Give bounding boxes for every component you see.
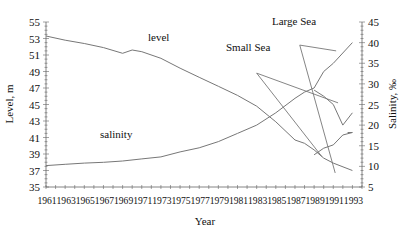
- axes: 1961196319651967196919711973197519771979…: [29, 16, 380, 206]
- series-salinity-small-sea: [314, 90, 352, 125]
- leader-line-large-sea: [300, 45, 335, 173]
- leader-lines: [257, 45, 338, 173]
- x-tick-label: 1993: [344, 195, 363, 206]
- series-level-large-sea: [314, 133, 352, 155]
- chart: 1961196319651967196919711973197519771979…: [0, 0, 415, 241]
- series-salinity: [46, 43, 352, 166]
- annotation-large-sea: Large Sea: [272, 15, 316, 27]
- y-tick-label-right: 15: [368, 140, 380, 152]
- y-axis-label-right: Salinity, ‰: [386, 79, 398, 129]
- annotation-level: level: [148, 31, 169, 43]
- x-tick-label: 1971: [133, 195, 152, 206]
- y-tick-label-left: 43: [29, 115, 41, 127]
- x-tick-label: 1963: [57, 195, 76, 206]
- y-tick-label-left: 41: [29, 132, 40, 144]
- annotation-small-sea: Small Sea: [226, 41, 270, 53]
- leader-line-large-sea: [300, 45, 336, 51]
- annotation-salinity: salinity: [100, 128, 133, 140]
- x-tick-label: 1981: [229, 195, 248, 206]
- y-tick-label-left: 39: [29, 148, 41, 160]
- x-tick-label: 1973: [152, 195, 171, 206]
- x-tick-label: 1989: [306, 195, 325, 206]
- x-tick-label: 1985: [267, 195, 286, 206]
- y-tick-label-left: 37: [29, 165, 41, 177]
- x-axis-label: Year: [195, 215, 216, 227]
- x-tick-label: 1961: [37, 195, 56, 206]
- x-tick-label: 1979: [210, 195, 229, 206]
- x-tick-label: 1987: [286, 195, 305, 206]
- y-tick-label-left: 55: [29, 16, 41, 28]
- series-level: [46, 36, 352, 171]
- x-tick-label: 1965: [76, 195, 95, 206]
- x-tick-label: 1969: [114, 195, 133, 206]
- x-tick-label: 1983: [248, 195, 267, 206]
- series-lines: [46, 36, 352, 171]
- x-tick-label: 1975: [171, 195, 190, 206]
- y-tick-label-left: 51: [29, 49, 40, 61]
- y-tick-label-left: 49: [29, 66, 41, 78]
- y-tick-label-left: 53: [29, 33, 41, 45]
- leader-line-small-sea: [257, 73, 322, 156]
- y-tick-label-left: 45: [29, 99, 41, 111]
- x-tick-label: 1977: [191, 195, 210, 206]
- y-tick-label-right: 45: [368, 16, 380, 28]
- y-tick-label-right: 20: [368, 119, 380, 131]
- x-tick-label: 1991: [325, 195, 344, 206]
- y-tick-label-right: 40: [368, 37, 380, 49]
- y-tick-label-left: 35: [29, 181, 41, 193]
- x-tick-label: 1967: [95, 195, 114, 206]
- y-tick-label-right: 5: [368, 181, 374, 193]
- y-tick-label-right: 35: [368, 57, 380, 69]
- y-tick-label-left: 47: [29, 82, 41, 94]
- y-tick-label-right: 25: [368, 99, 380, 111]
- y-tick-label-right: 30: [368, 78, 380, 90]
- y-tick-label-right: 10: [368, 160, 380, 172]
- leader-line-small-sea: [257, 73, 338, 103]
- y-axis-label-left: Level, m: [3, 84, 15, 124]
